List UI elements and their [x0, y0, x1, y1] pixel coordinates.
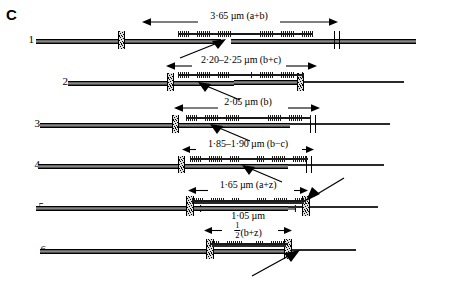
myosin-filament-1: [178, 31, 313, 37]
row-number-2: 2: [54, 75, 68, 87]
row-number-3: 3: [26, 117, 40, 129]
z-line-left-3: [172, 115, 179, 133]
z-line-right-1: [334, 31, 340, 49]
actin-filament-right-thick-2: [234, 80, 300, 85]
dimension-arrow-1: [142, 15, 338, 29]
dimension-arrow-3: [174, 101, 320, 115]
row-number-1: 1: [20, 33, 34, 45]
dimension-arrow-5: [188, 184, 308, 197]
panel-label: C: [6, 6, 17, 23]
dimension-arrow-6: [204, 224, 292, 237]
actin-filament-right-1: [231, 39, 416, 44]
overlap-filament-6: [212, 245, 286, 247]
figure-panel-c: C 1 3·65 µm (a+b) 2 2·20–2·25 µm (b+c): [0, 0, 451, 285]
myosin-filament-2: [178, 72, 304, 78]
actin-filament-right-4: [288, 164, 384, 166]
overlap-filament-5: [194, 202, 304, 204]
pointer-arrow-6: [250, 248, 302, 278]
actin-filament-left-3: [40, 123, 290, 128]
pointer-arrow-5: [304, 176, 346, 202]
z-line-left-2: [167, 73, 174, 91]
actin-filament-right-3: [290, 123, 390, 125]
dimension-arrow-2: [166, 59, 317, 73]
dimension-arrow-4: [182, 143, 314, 156]
myosin-filament-4: [190, 156, 308, 162]
myosin-filament-3: [186, 115, 311, 121]
z-line-left-4: [178, 156, 185, 173]
z-line-left-1: [118, 31, 125, 49]
actin-filament-left-5: [36, 206, 288, 211]
